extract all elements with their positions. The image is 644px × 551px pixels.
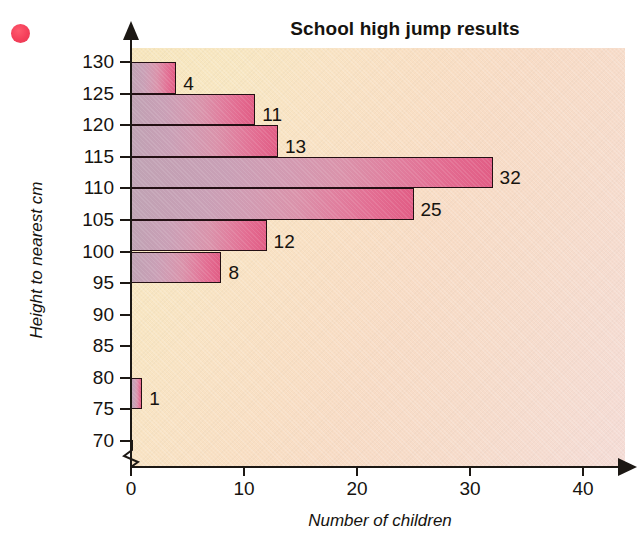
x-tick-30	[469, 466, 471, 476]
bar-value-label-100-105: 12	[274, 232, 295, 251]
y-tick-115	[120, 156, 131, 158]
x-tick-label-0: 0	[107, 479, 155, 498]
bar-95-100	[131, 252, 221, 284]
y-tick-label-90: 90	[62, 305, 114, 324]
y-tick-75	[120, 408, 131, 410]
y-axis-line	[130, 38, 132, 468]
y-tick-label-115: 115	[62, 147, 114, 166]
bar-value-label-110-115: 32	[500, 168, 521, 187]
x-axis-title: Number of children	[180, 511, 580, 531]
x-tick-label-20: 20	[333, 479, 381, 498]
y-tick-125	[120, 93, 131, 95]
y-tick-90	[120, 314, 131, 316]
y-tick-label-120: 120	[62, 115, 114, 134]
y-tick-label-110: 110	[62, 178, 114, 197]
bar-105-110	[131, 188, 414, 220]
bar-value-label-95-100: 8	[228, 263, 239, 282]
y-tick-95	[120, 282, 131, 284]
bar-125-130	[131, 62, 176, 94]
bar-120-125	[131, 94, 255, 126]
x-tick-label-40: 40	[559, 479, 607, 498]
bar-75-80	[131, 378, 142, 410]
x-axis-line	[131, 466, 621, 468]
bar-value-label-105-110: 25	[421, 200, 442, 219]
y-tick-label-70: 70	[62, 431, 114, 450]
chart-title: School high jump results	[185, 18, 625, 40]
x-axis-arrow-icon	[618, 458, 637, 476]
y-tick-label-130: 130	[62, 52, 114, 71]
bar-115-120	[131, 125, 278, 157]
y-tick-85	[120, 345, 131, 347]
x-tick-10	[243, 466, 245, 476]
bar-value-label-120-125: 11	[262, 105, 282, 124]
x-tick-0	[130, 466, 132, 476]
y-tick-label-95: 95	[62, 273, 114, 292]
y-tick-120	[120, 124, 131, 126]
chart-figure: School high jump results 4111332251281 1…	[0, 0, 644, 551]
axis-break-icon	[118, 440, 148, 472]
y-tick-label-80: 80	[62, 368, 114, 387]
y-tick-70	[120, 440, 131, 442]
y-tick-label-125: 125	[62, 84, 114, 103]
x-tick-40	[582, 466, 584, 476]
y-tick-100	[120, 251, 131, 253]
y-tick-110	[120, 187, 131, 189]
bar-value-label-125-130: 4	[183, 74, 194, 93]
marker-dot-icon	[11, 24, 30, 43]
bar-100-105	[131, 220, 267, 252]
y-tick-130	[120, 61, 131, 63]
bar-value-label-115-120: 13	[285, 137, 306, 156]
y-axis-arrow-icon	[123, 21, 139, 40]
y-tick-label-105: 105	[62, 210, 114, 229]
y-axis-title: Height to nearest cm	[27, 150, 47, 370]
x-tick-20	[356, 466, 358, 476]
y-tick-105	[120, 219, 131, 221]
x-tick-label-30: 30	[446, 479, 494, 498]
bar-110-115	[131, 157, 493, 189]
y-tick-label-85: 85	[62, 336, 114, 355]
y-tick-label-75: 75	[62, 399, 114, 418]
bar-value-label-75-80: 1	[149, 389, 160, 408]
x-tick-label-10: 10	[220, 479, 268, 498]
y-tick-80	[120, 377, 131, 379]
y-tick-label-100: 100	[62, 242, 114, 261]
